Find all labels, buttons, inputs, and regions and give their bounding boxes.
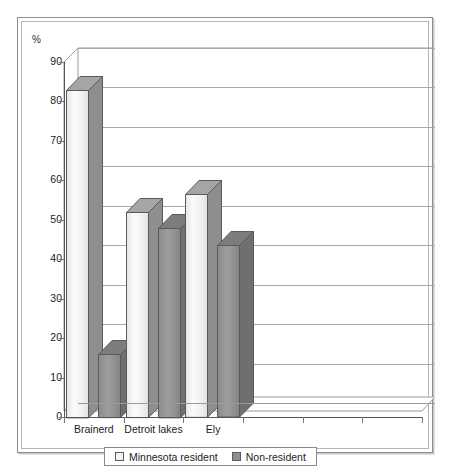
x-axis-label: Brainerd <box>74 423 114 435</box>
legend-item-non-resident: Non-resident <box>232 451 306 463</box>
legend-swatch-icon <box>115 452 124 461</box>
bar-brainerd-minnesota-resident <box>66 76 88 417</box>
legend-label: Minnesota resident <box>129 451 218 463</box>
bars-layer <box>18 18 434 454</box>
screenshot-root: % 0102030405060708090 BrainerdDetroit la… <box>0 0 452 476</box>
bar-3d-shape <box>217 231 255 419</box>
legend-item-minnesota-resident: Minnesota resident <box>115 451 218 463</box>
chart-legend: Minnesota resident Non-resident <box>104 447 317 466</box>
x-axis-tick <box>303 417 304 423</box>
x-axis-tick <box>183 417 184 423</box>
bar-chart: % 0102030405060708090 BrainerdDetroit la… <box>18 18 434 454</box>
y-axis-line <box>64 62 65 418</box>
x-axis-tick <box>243 417 244 423</box>
bar-brainerd-non-resident <box>98 340 120 417</box>
plot-floor-front-edge <box>78 403 435 404</box>
bar-detroit-lakes-minnesota-resident <box>126 198 148 417</box>
x-axis-tick <box>422 417 423 423</box>
legend-swatch-icon <box>232 452 241 461</box>
legend-label: Non-resident <box>246 451 306 463</box>
x-axis-label: Detroit lakes <box>124 423 182 435</box>
x-axis-tick <box>362 417 363 423</box>
bar-detroit-lakes-non-resident <box>158 214 180 417</box>
x-axis-tick <box>64 417 65 423</box>
bar-ely-minnesota-resident <box>185 180 207 417</box>
chart-frame: % 0102030405060708090 BrainerdDetroit la… <box>17 17 433 453</box>
x-axis-label: Ely <box>206 423 221 435</box>
bar-ely-non-resident <box>217 231 239 417</box>
